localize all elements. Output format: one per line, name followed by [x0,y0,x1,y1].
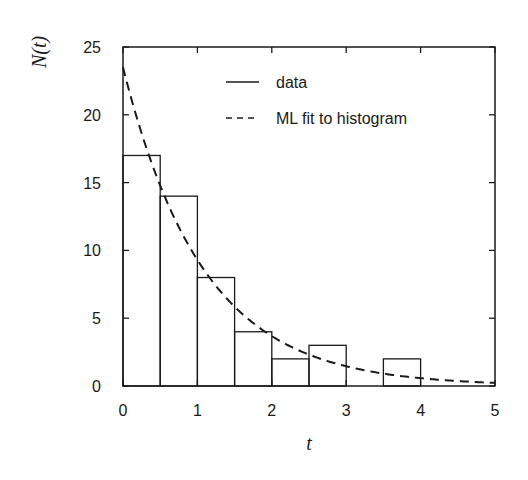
x-tick-label: 5 [491,402,500,419]
y-axis-label: N(t) [28,36,51,70]
x-tick-label: 0 [119,402,128,419]
y-tick-label: 10 [83,242,101,259]
axis-ticks: 0123450510152025 [83,39,499,419]
axes-box [123,47,495,386]
histogram-bin [197,278,234,386]
y-tick-label: 20 [83,107,101,124]
histogram-bin [235,332,272,386]
axes-frame [123,47,495,386]
y-tick-label: 0 [92,378,101,395]
legend: data ML fit to histogram [226,74,407,127]
histogram-bin [383,359,420,386]
x-tick-label: 2 [267,402,276,419]
x-tick-label: 1 [193,402,202,419]
legend-label-fit: ML fit to histogram [276,110,407,127]
histogram-bin [309,345,346,386]
x-tick-label: 4 [416,402,425,419]
x-tick-label: 3 [342,402,351,419]
histogram-series [123,155,421,386]
histogram-bin [272,359,309,386]
y-tick-label: 5 [92,310,101,327]
histogram-bin [123,155,160,386]
histogram-chart: 0123450510152025 data ML fit to histogra… [0,0,528,480]
legend-label-data: data [276,74,307,91]
y-tick-label: 15 [83,175,101,192]
y-tick-label: 25 [83,39,101,56]
x-axis-label: t [306,432,312,454]
histogram-bin [160,196,197,386]
